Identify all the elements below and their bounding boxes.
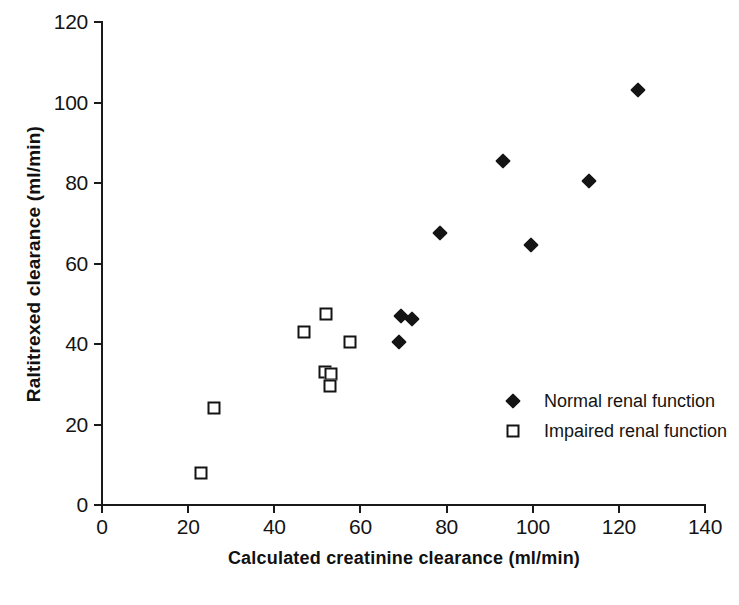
- y-axis-title: Raltitrexed clearance (ml/min): [23, 54, 45, 474]
- y-tick: [94, 182, 102, 184]
- y-tick-label: 40: [65, 332, 88, 356]
- data-point: [207, 402, 220, 415]
- data-point: [581, 173, 597, 189]
- x-tick-label: 0: [96, 515, 107, 539]
- x-tick-label: 120: [602, 515, 636, 539]
- x-tick: [704, 505, 706, 513]
- legend: Normal renal function Impaired renal fun…: [500, 388, 739, 456]
- y-tick: [94, 21, 102, 23]
- x-tick-label: 40: [263, 515, 286, 539]
- data-point: [630, 83, 646, 99]
- data-point: [319, 307, 332, 320]
- x-tick-label: 100: [516, 515, 550, 539]
- y-tick: [94, 343, 102, 345]
- x-tick: [101, 505, 103, 513]
- x-tick: [618, 505, 620, 513]
- x-axis-title: Calculated creatinine clearance (ml/min): [102, 548, 706, 569]
- x-tick: [273, 505, 275, 513]
- y-tick: [94, 263, 102, 265]
- data-point: [523, 238, 539, 254]
- y-tick-label: 100: [54, 91, 88, 115]
- x-tick-label: 140: [688, 515, 722, 539]
- open-square-icon: [500, 418, 526, 444]
- data-point: [495, 153, 511, 169]
- x-tick: [359, 505, 361, 513]
- legend-item-impaired-renal-function: Impaired renal function: [500, 418, 727, 444]
- y-tick-label: 20: [65, 413, 88, 437]
- y-tick-label: 0: [77, 493, 88, 517]
- data-point: [195, 466, 208, 479]
- data-point: [325, 368, 338, 381]
- x-tick: [532, 505, 534, 513]
- legend-label: Normal renal function: [544, 391, 715, 412]
- x-tick-label: 80: [435, 515, 458, 539]
- x-tick-label: 60: [349, 515, 372, 539]
- legend-item-normal-renal-function: Normal renal function: [500, 388, 715, 414]
- legend-label: Impaired renal function: [544, 421, 727, 442]
- y-tick: [94, 424, 102, 426]
- y-tick-label: 60: [65, 252, 88, 276]
- y-tick-label: 80: [65, 171, 88, 195]
- scatter-plot-figure: 020406080100120 020406080100120140 Ralti…: [0, 0, 739, 605]
- data-point: [432, 226, 448, 242]
- y-tick: [94, 102, 102, 104]
- x-tick: [187, 505, 189, 513]
- data-point: [391, 334, 407, 350]
- x-tick-label: 20: [177, 515, 200, 539]
- x-tick: [446, 505, 448, 513]
- y-tick-label: 120: [54, 10, 88, 34]
- data-point: [324, 380, 337, 393]
- data-point: [298, 325, 311, 338]
- data-point: [343, 335, 356, 348]
- filled-diamond-icon: [500, 388, 526, 414]
